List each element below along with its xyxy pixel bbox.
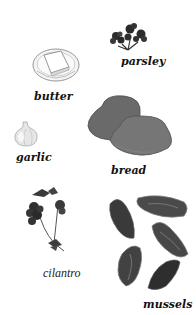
butter-label: butter	[34, 90, 73, 103]
parsley-label: parsley	[121, 55, 165, 68]
bread-icon	[84, 92, 176, 160]
parsley-icon	[108, 22, 150, 54]
garlic-label: garlic	[16, 151, 52, 164]
bread-label: bread	[111, 164, 146, 177]
mussels-icon	[104, 192, 192, 292]
cilantro-icon	[24, 185, 72, 255]
butter-icon	[31, 45, 81, 83]
garlic-icon	[12, 120, 40, 148]
cilantro-label: cilantro	[43, 266, 81, 281]
mussels-label: mussels	[143, 298, 192, 311]
